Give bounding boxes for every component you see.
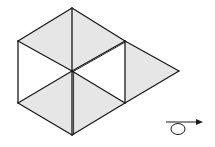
rotation-loop bbox=[171, 124, 185, 135]
right-triangle-face bbox=[125, 41, 179, 103]
rotation-arrow-icon bbox=[166, 119, 203, 135]
diagram-canvas bbox=[0, 0, 215, 147]
net-diagram bbox=[0, 0, 215, 147]
arrowhead bbox=[196, 119, 203, 125]
